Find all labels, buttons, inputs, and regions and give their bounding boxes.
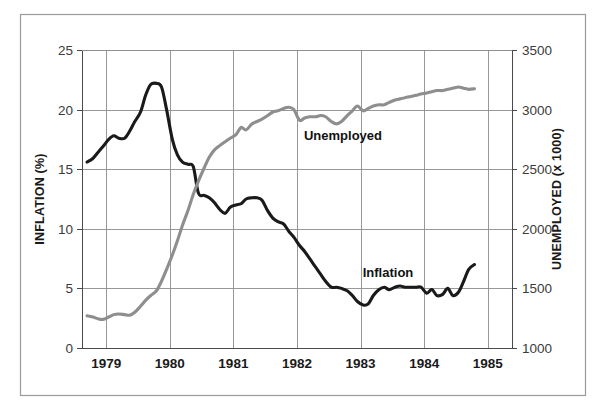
x-axis-tick-label: 1985 xyxy=(473,356,504,371)
x-axis-tick-label: 1981 xyxy=(218,356,249,371)
y-axis-left-tick-label: 5 xyxy=(65,281,73,296)
y-axis-right-title: UNEMPLOYED (x 1000) xyxy=(550,128,564,270)
y-axis-left-tick-label: 10 xyxy=(58,222,73,237)
series-label-inflation: Inflation xyxy=(363,265,414,280)
plot-area: 0510152025100015002000250030003500197919… xyxy=(58,43,552,371)
x-axis-tick-label: 1982 xyxy=(282,356,312,371)
x-axis-tick-label: 1980 xyxy=(155,356,185,371)
y-axis-right-tick-label: 3500 xyxy=(522,43,552,58)
y-axis-left-tick-label: 25 xyxy=(58,43,73,58)
y-axis-right-tick-label: 3000 xyxy=(522,103,552,118)
y-axis-left-tick-label: 0 xyxy=(65,341,73,356)
y-axis-right-tick-label: 2000 xyxy=(522,222,552,237)
inflation-unemployment-chart: 0510152025100015002000250030003500197919… xyxy=(0,0,604,417)
x-axis-tick-label: 1983 xyxy=(346,356,377,371)
y-axis-right-tick-label: 1000 xyxy=(522,341,552,356)
y-axis-left-tick-label: 15 xyxy=(58,162,73,177)
y-axis-right-tick-label: 1500 xyxy=(522,281,552,296)
y-axis-left-title: INFLATION (%) xyxy=(33,153,47,244)
x-axis-tick-label: 1979 xyxy=(91,356,121,371)
series-label-unemployed: Unemployed xyxy=(304,128,382,143)
x-axis-tick-label: 1984 xyxy=(409,356,440,371)
y-axis-right-tick-label: 2500 xyxy=(522,162,552,177)
y-axis-left-tick-label: 20 xyxy=(58,103,73,118)
